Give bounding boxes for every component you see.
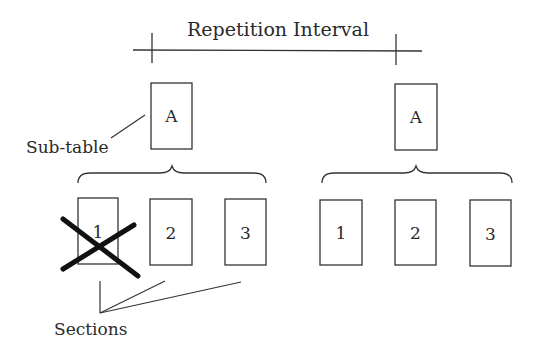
section-label: 3 (485, 224, 496, 244)
section-label: 3 (240, 223, 251, 243)
subtable-label: A (409, 107, 423, 127)
section-label: 2 (410, 223, 421, 243)
diagram-svg: Repetition Interval A Sub-table 1 2 3 (0, 0, 535, 358)
subtable-annotation: Sub-table (26, 137, 109, 157)
interval-title: Repetition Interval (187, 18, 369, 40)
group-2: A 1 2 3 (320, 84, 512, 266)
section-label: 2 (166, 223, 177, 243)
subtable-label: A (164, 106, 178, 126)
section-label: 1 (93, 222, 104, 242)
group-brace (78, 166, 266, 183)
sections-leader-lines (100, 281, 241, 313)
group-1: A Sub-table 1 2 3 Se (26, 83, 266, 339)
group-brace (322, 166, 512, 183)
diagram-canvas: Repetition Interval A Sub-table 1 2 3 (0, 0, 535, 358)
repetition-interval-marker: Repetition Interval (133, 18, 422, 65)
subtable-leader-line (111, 115, 145, 138)
interval-line (133, 50, 422, 51)
section-label: 1 (336, 223, 347, 243)
sections-annotation: Sections (54, 319, 127, 339)
